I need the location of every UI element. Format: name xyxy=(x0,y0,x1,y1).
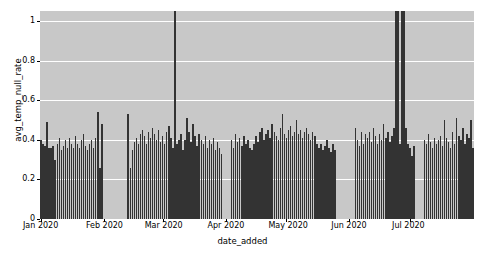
bar xyxy=(101,124,102,219)
chart-figure: avg_temp_null_rate 00.20.40.60.81 Jan 20… xyxy=(0,0,485,254)
x-tick-label: Jan 2020 xyxy=(23,221,58,230)
y-tick-label: 0.2 xyxy=(22,175,35,183)
bar xyxy=(221,154,222,219)
x-tick-label: Jun 2020 xyxy=(331,221,366,230)
bar-series xyxy=(40,11,474,219)
y-tick-label: 0.6 xyxy=(22,96,35,104)
y-tick-label: 1 xyxy=(30,17,35,25)
x-tick-label: Apr 2020 xyxy=(208,221,245,230)
x-tick-label: Jul 2020 xyxy=(392,221,425,230)
y-tick-label: 0.8 xyxy=(22,57,35,65)
bar xyxy=(413,146,414,219)
x-tick-label: Feb 2020 xyxy=(86,221,123,230)
x-tick-label: May 2020 xyxy=(268,221,307,230)
bar xyxy=(334,150,335,219)
x-tick-label: Mar 2020 xyxy=(145,221,183,230)
x-axis-title: date_added xyxy=(0,236,485,246)
y-tick-mark xyxy=(37,219,40,220)
plot-area xyxy=(40,11,474,219)
bar xyxy=(472,148,473,219)
y-tick-label: 0.4 xyxy=(22,136,35,144)
